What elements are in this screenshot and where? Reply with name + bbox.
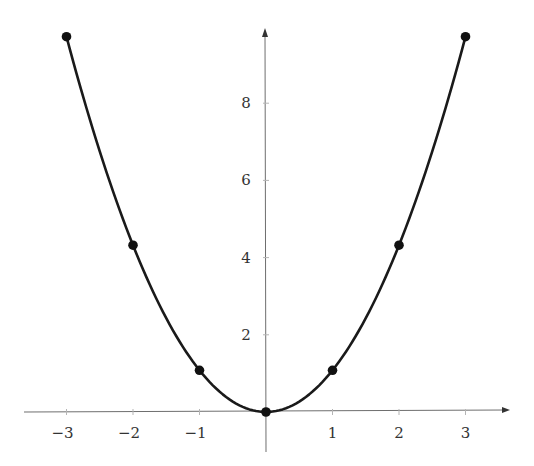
data-point-marker: [62, 32, 72, 42]
data-point-marker: [461, 32, 471, 42]
x-tick-label: 3: [461, 424, 471, 442]
y-axis: 2468: [241, 28, 269, 452]
x-tick-label: 2: [394, 424, 404, 442]
parabola-chart: −3−2−1123 2468: [0, 0, 534, 466]
data-point-marker: [328, 366, 338, 376]
x-tick-label: 1: [328, 424, 338, 442]
data-point-marker: [261, 407, 271, 417]
x-tick-label: −3: [51, 424, 73, 442]
y-tick-label: 8: [241, 94, 251, 112]
x-axis-arrow-icon: [502, 407, 510, 413]
y-tick-label: 4: [241, 249, 251, 267]
data-point-marker: [195, 366, 205, 376]
y-axis-arrow-icon: [262, 28, 268, 37]
x-ticks: −3−2−1123: [51, 409, 470, 442]
x-tick-label: −1: [184, 424, 206, 442]
data-point-marker: [394, 240, 404, 250]
data-point-marker: [128, 240, 138, 250]
y-tick-label: 2: [241, 326, 251, 344]
x-tick-label: −2: [118, 424, 140, 442]
y-axis-line: [265, 34, 266, 452]
y-tick-label: 6: [241, 171, 251, 189]
